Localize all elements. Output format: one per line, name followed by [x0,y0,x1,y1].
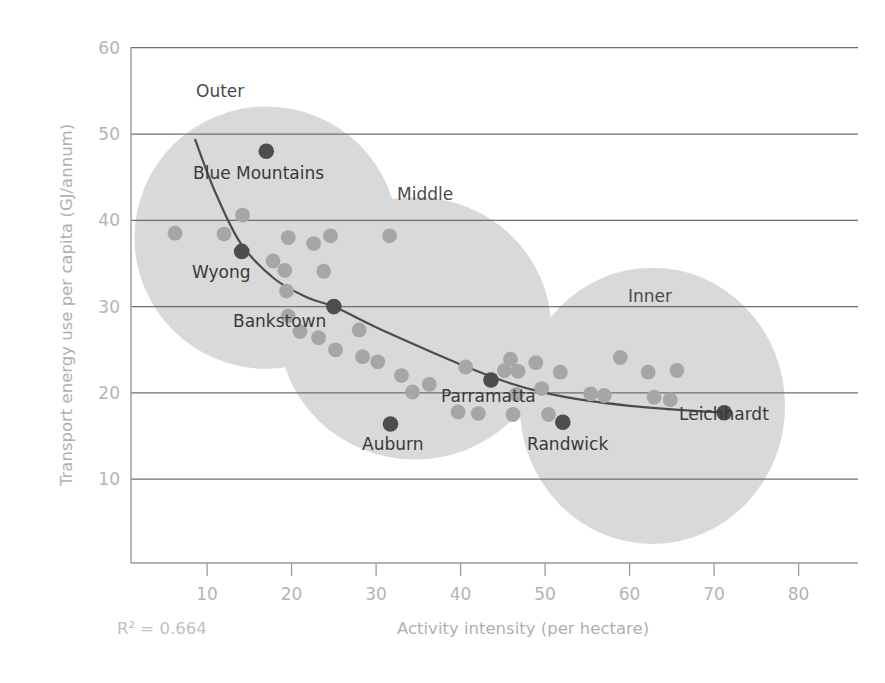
data-point [281,230,296,245]
data-point [235,208,250,223]
data-point [328,342,343,357]
point-label-wyong: Wyong [192,262,251,282]
x-tick-label-20: 20 [281,584,303,604]
highlighted-point-blue-mountains [259,144,275,160]
data-point [405,385,420,400]
y-tick-label-30: 30 [98,297,120,317]
data-point [306,236,321,251]
data-point [168,226,183,241]
data-point [266,254,281,269]
data-point [663,392,678,407]
x-tick-label-40: 40 [450,584,472,604]
data-point [670,363,685,378]
point-label-randwick: Randwick [527,434,608,454]
data-point [511,364,526,379]
x-axis-title: Activity intensity (per hectare) [397,619,649,638]
x-tick-label-70: 70 [703,584,725,604]
r-squared-annotation: R² = 0.664 [117,619,207,638]
data-point [641,365,656,380]
data-point [382,228,397,243]
data-point [471,406,486,421]
x-tick-label-60: 60 [619,584,641,604]
data-point [370,354,385,369]
data-point [217,227,232,242]
data-point [355,349,370,364]
y-tick-label-50: 50 [98,124,120,144]
cluster-label-inner: Inner [628,286,672,306]
y-tick-label-20: 20 [98,383,120,403]
y-tick-label-10: 10 [98,469,120,489]
data-point [597,388,612,403]
point-label-bankstown: Bankstown [233,311,326,331]
y-tick-label-60: 60 [98,38,120,58]
x-tick-label-10: 10 [196,584,218,604]
data-point [506,407,521,422]
data-point [534,381,549,396]
highlighted-point-bankstown [326,299,342,315]
x-tick-label-30: 30 [365,584,387,604]
point-label-leichhardt: Leichhardt [679,404,769,424]
data-point [583,386,598,401]
y-axis-title: Transport energy use per capita (GJ/annu… [57,124,76,487]
data-point [647,390,662,405]
point-label-parramatta: Parramatta [441,386,536,406]
cluster-label-outer: Outer [196,81,244,101]
data-point [323,228,338,243]
x-tick-label-80: 80 [788,584,810,604]
highlighted-point-auburn [383,416,399,432]
data-point [451,405,466,420]
data-point [613,350,628,365]
plot-canvas: 1020304050607080 605040302010 Outer Midd… [0,0,885,683]
highlighted-point-wyong [234,244,250,260]
data-point [316,264,331,279]
data-point [277,263,292,278]
data-point [352,323,367,338]
point-label-auburn: Auburn [362,434,423,454]
data-point [458,360,473,375]
data-point [394,368,409,383]
y-tick-label-40: 40 [98,210,120,230]
point-label-blue-mountains: Blue Mountains [193,163,324,183]
scatter-chart-figure: 1020304050607080 605040302010 Outer Midd… [0,0,885,683]
data-point [279,284,294,299]
data-point [422,377,437,392]
highlighted-point-randwick [555,414,571,430]
data-point [311,330,326,345]
data-point [541,407,556,422]
x-tick-label-50: 50 [534,584,556,604]
data-point [528,355,543,370]
data-point [553,365,568,380]
cluster-label-middle: Middle [397,184,453,204]
